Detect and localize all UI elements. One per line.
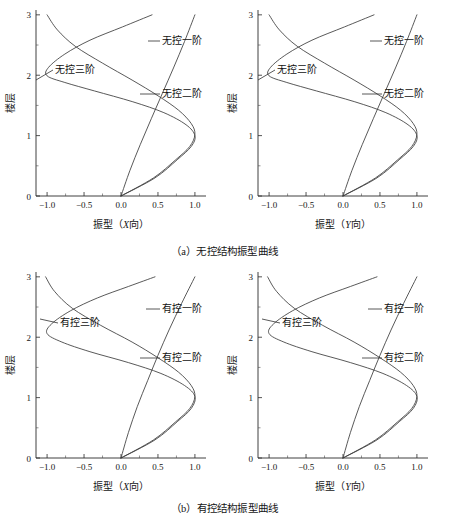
y-tick-label: 0: [249, 454, 254, 464]
y-tick-label: 0: [27, 192, 32, 202]
y-tick-label: 2: [249, 71, 254, 81]
chart-panel-a-y: −1.0−0.50.00.51.00123无控一阶无控二阶无控三阶振型（Y向）楼…: [222, 0, 446, 248]
y-axis-title: 楼层: [4, 355, 16, 375]
annotation-label: 无控一阶: [384, 34, 424, 46]
y-tick-label: 0: [27, 454, 32, 464]
annotation-label: 无控三阶: [277, 63, 317, 75]
x-tick-label: −1.0: [261, 462, 278, 472]
x-axis-title-prefix: 振型（: [93, 480, 123, 492]
x-axis-title-suffix: 向）: [129, 218, 149, 230]
chart-axes: [258, 272, 428, 458]
annotation-label: 有控一阶: [384, 302, 424, 314]
annotation-label: 有控三阶: [282, 316, 322, 328]
x-tick-label: 0.5: [152, 200, 164, 210]
y-tick-label: 1: [249, 393, 254, 403]
x-tick-label: −0.5: [76, 462, 93, 472]
y-tick-label: 0: [249, 192, 254, 202]
chart-svg-b-x: −1.0−0.50.00.51.00123有控一阶有控二阶有控三阶振型（X向）楼…: [0, 262, 224, 510]
annotation-label: 无控二阶: [384, 87, 424, 99]
chart-panel-b-y: −1.0−0.50.00.51.00123有控一阶有控二阶有控三阶振型（Y向）楼…: [222, 262, 446, 510]
y-axis-title: 楼层: [226, 93, 238, 113]
x-tick-label: −0.5: [298, 200, 315, 210]
y-tick-label: 1: [27, 131, 32, 141]
x-axis-title-prefix: 振型（: [315, 218, 345, 230]
y-tick-label: 1: [249, 131, 254, 141]
mode-shape-figure: −1.0−0.50.00.51.00123无控一阶无控二阶无控三阶振型（X向）楼…: [0, 0, 449, 521]
x-tick-label: 0.5: [374, 200, 386, 210]
annotation-label: 有控二阶: [162, 351, 202, 363]
chart-panel-a-x: −1.0−0.50.00.51.00123无控一阶无控二阶无控三阶振型（X向）楼…: [0, 0, 224, 248]
x-axis-title: 振型（X向）: [93, 218, 149, 230]
x-tick-label: −1.0: [261, 200, 278, 210]
x-tick-label: −1.0: [39, 462, 56, 472]
x-axis-title: 振型（Y向）: [315, 218, 371, 230]
y-tick-label: 3: [27, 10, 32, 20]
x-axis-title-suffix: 向）: [129, 480, 149, 492]
chart-svg-a-x: −1.0−0.50.00.51.00123无控一阶无控二阶无控三阶振型（X向）楼…: [0, 0, 224, 248]
y-tick-label: 3: [27, 272, 32, 282]
y-tick-label: 1: [27, 393, 32, 403]
y-tick-label: 2: [249, 333, 254, 343]
x-axis-title-suffix: 向）: [351, 218, 371, 230]
y-tick-label: 3: [249, 10, 254, 20]
x-tick-label: 1.0: [411, 462, 423, 472]
x-tick-label: 1.0: [189, 462, 201, 472]
x-tick-label: −0.5: [298, 462, 315, 472]
caption-b: （b）有控结构振型曲线: [0, 500, 449, 515]
y-tick-label: 2: [27, 71, 32, 81]
chart-axes: [36, 272, 206, 458]
annotation-label: 有控一阶: [162, 302, 202, 314]
annotation-label: 无控一阶: [162, 34, 202, 46]
x-tick-label: 0.5: [152, 462, 164, 472]
chart-panel-b-x: −1.0−0.50.00.51.00123有控一阶有控二阶有控三阶振型（X向）楼…: [0, 262, 224, 510]
chart-svg-b-y: −1.0−0.50.00.51.00123有控一阶有控二阶有控三阶振型（Y向）楼…: [222, 262, 446, 510]
x-tick-label: 0.0: [115, 462, 127, 472]
x-tick-label: −1.0: [39, 200, 56, 210]
annotation-label: 有控二阶: [384, 351, 424, 363]
caption-a: （a）无控结构振型曲线: [0, 243, 449, 258]
x-tick-label: 0.0: [337, 200, 349, 210]
chart-svg-a-y: −1.0−0.50.00.51.00123无控一阶无控二阶无控三阶振型（Y向）楼…: [222, 0, 446, 248]
x-axis-title-prefix: 振型（: [315, 480, 345, 492]
annotation-label: 无控二阶: [162, 87, 202, 99]
x-axis-title: 振型（Y向）: [315, 480, 371, 492]
x-tick-label: 0.0: [337, 462, 349, 472]
annotation-label: 无控三阶: [55, 63, 95, 75]
y-tick-label: 2: [27, 333, 32, 343]
x-tick-label: 1.0: [189, 200, 201, 210]
x-tick-label: 1.0: [411, 200, 423, 210]
y-tick-label: 3: [249, 272, 254, 282]
y-axis-title: 楼层: [226, 355, 238, 375]
annotation-label: 有控三阶: [60, 316, 100, 328]
x-tick-label: 0.5: [374, 462, 386, 472]
x-axis-title: 振型（X向）: [93, 480, 149, 492]
x-tick-label: 0.0: [115, 200, 127, 210]
x-axis-title-suffix: 向）: [351, 480, 371, 492]
x-tick-label: −0.5: [76, 200, 93, 210]
y-axis-title: 楼层: [4, 93, 16, 113]
x-axis-title-prefix: 振型（: [93, 218, 123, 230]
